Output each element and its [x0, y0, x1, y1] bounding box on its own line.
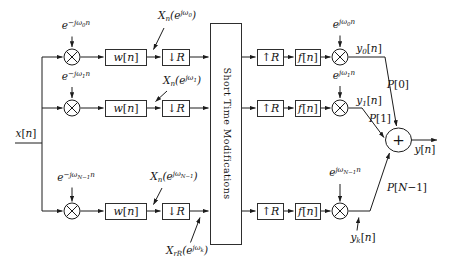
branch-signal-label-0: y0[n]: [353, 42, 385, 56]
stft-label-1: Xn(ejω1): [151, 74, 213, 88]
synthesis-carrier-label-1: ejω1n: [322, 69, 366, 81]
interpolator-box-2: ↑R: [257, 203, 284, 220]
interpolator-box-label: ↑R: [262, 52, 280, 63]
filter-box-1: f[n]: [295, 100, 321, 117]
multiply-cross-icon: [66, 102, 77, 113]
filter-box-0: f[n]: [295, 49, 321, 66]
synthesis-carrier-label-0: ejω0n: [322, 18, 366, 30]
interpolator-box-1: ↑R: [257, 100, 284, 117]
stft-label-2: Xn(ejωN−1): [138, 170, 210, 184]
analysis-carrier-label-2: e−jωN−1n: [46, 171, 106, 183]
block-diagram-figure: w[n] w[n] w[n] ↓R ↓R ↓R Short Time Modif…: [0, 0, 452, 271]
branch-signal-label-1: y1[n]: [353, 94, 385, 108]
yk-pointer-arrow: [357, 218, 359, 231]
filter-box-label: f[n]: [298, 52, 318, 63]
interpolator-box-0: ↑R: [257, 49, 284, 66]
decimator-box-2: ↓R: [162, 203, 190, 220]
window-box-label: w[n]: [113, 52, 138, 63]
multiply-cross-icon: [66, 51, 77, 62]
decimated-stft-label: XrR(ejωk): [156, 244, 218, 258]
gain-label-0: P[0]: [384, 78, 412, 90]
stm-block-label: Short Time Modifications: [220, 23, 233, 245]
input-signal-label: x[n]: [10, 127, 42, 139]
gain-label-1: P[1]: [366, 112, 394, 124]
multiply-cross-icon: [334, 51, 345, 62]
decimator-box-label: ↓R: [167, 52, 185, 63]
stft-label-0: Xn(ejω0): [145, 9, 209, 23]
stft-pointer-arrow-2: [154, 188, 163, 205]
branch-signal-label-2: yk[n]: [347, 231, 379, 245]
window-box-label: w[n]: [113, 103, 138, 114]
window-box-0: w[n]: [105, 49, 147, 66]
decimator-box-1: ↓R: [162, 100, 190, 117]
window-box-2: w[n]: [105, 203, 147, 220]
interpolator-box-label: ↑R: [262, 206, 280, 217]
filter-box-label: f[n]: [298, 103, 318, 114]
output-signal-label: y[n]: [410, 143, 440, 155]
analysis-carrier-label-1: e−jω1n: [50, 70, 102, 82]
filter-box-2: f[n]: [295, 203, 321, 220]
decimator-box-label: ↓R: [167, 206, 185, 217]
interpolator-box-label: ↑R: [262, 103, 280, 114]
decimator-box-label: ↓R: [167, 103, 185, 114]
decimator-box-0: ↓R: [162, 49, 190, 66]
multiply-cross-icon: [334, 102, 345, 113]
multiply-cross-icon: [66, 205, 77, 216]
stft-pointer-arrow-0: [154, 28, 165, 50]
gain-label-2: P[N−1]: [384, 181, 430, 193]
synthesis-carrier-label-2: ejωN−1n: [320, 166, 370, 178]
multiply-cross-icon: [334, 205, 345, 216]
window-box-1: w[n]: [105, 100, 147, 117]
window-box-label: w[n]: [113, 206, 138, 217]
plus-icon: +: [390, 130, 407, 149]
analysis-carrier-label-0: e−jω0n: [50, 19, 102, 31]
filter-box-label: f[n]: [298, 206, 318, 217]
decimated-stft-pointer-arrow: [191, 218, 201, 243]
